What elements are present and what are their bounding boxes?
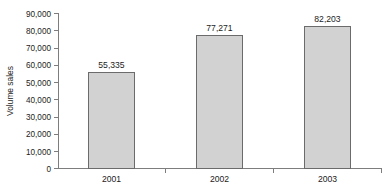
y-axis-tick-labels: 90,000 80,000 70,000 60,000 50,000 40,00… <box>26 10 51 174</box>
y-tick-label: 80,000 <box>26 27 51 36</box>
y-tick-label: 90,000 <box>26 10 51 19</box>
y-tick-label: 10,000 <box>26 148 51 157</box>
bar-value-label-2003: 82,203 <box>314 14 341 24</box>
x-axis-ticks <box>166 169 382 174</box>
y-tick-label: 0 <box>46 165 51 174</box>
bar-value-label-2001: 55,335 <box>98 60 125 70</box>
bar-2001[interactable] <box>89 73 135 169</box>
chart-canvas: Volume sales 90,000 80,000 70,000 60,000… <box>0 0 384 189</box>
y-tick-label: 70,000 <box>26 44 51 53</box>
bar-series <box>89 27 351 169</box>
x-axis-category-labels: 2001 2002 2003 <box>102 174 337 184</box>
x-category-label-2002: 2002 <box>210 174 229 184</box>
bar-2003[interactable] <box>305 27 351 169</box>
bar-2002[interactable] <box>197 36 243 169</box>
y-axis-title: Volume sales <box>5 66 15 116</box>
y-tick-label: 30,000 <box>26 113 51 122</box>
bar-chart: Volume sales 90,000 80,000 70,000 60,000… <box>0 0 384 189</box>
y-axis-ticks <box>54 14 59 169</box>
y-tick-label: 20,000 <box>26 130 51 139</box>
x-category-label-2001: 2001 <box>102 174 121 184</box>
bar-value-label-2002: 77,271 <box>206 23 233 33</box>
x-category-label-2003: 2003 <box>318 174 337 184</box>
y-tick-label: 60,000 <box>26 61 51 70</box>
y-tick-label: 40,000 <box>26 96 51 105</box>
y-tick-label: 50,000 <box>26 79 51 88</box>
